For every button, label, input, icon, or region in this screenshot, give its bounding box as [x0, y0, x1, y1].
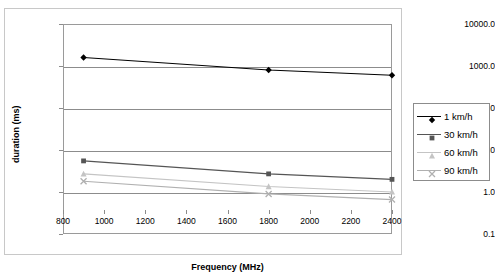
- series-60-km-h: [81, 171, 395, 195]
- x-tick-label: 1800: [249, 217, 289, 226]
- legend-label: 90 km/h: [441, 166, 478, 176]
- legend-swatch-icon: [417, 129, 441, 141]
- data-point: [265, 67, 271, 73]
- x-tick-label: 1400: [166, 217, 206, 226]
- x-axis-title: Frequency (MHz): [43, 262, 412, 272]
- legend-item-60-km-h[interactable]: 60 km/h: [417, 144, 478, 162]
- chart-container: duration (ms) 0.11.010.0100.01000.010000…: [0, 0, 495, 272]
- x-tick-mark: [228, 210, 229, 214]
- y-tick-mark: [59, 234, 63, 235]
- legend-swatch-icon: [417, 165, 441, 177]
- y-tick-label: 1000.0: [437, 62, 495, 71]
- legend-label: 1 km/h: [441, 112, 473, 122]
- y-tick-label: 10000.0: [437, 20, 495, 29]
- series-30-km-h: [81, 159, 394, 182]
- legend-swatch-icon: [417, 111, 441, 123]
- legend-item-30-km-h[interactable]: 30 km/h: [417, 126, 478, 144]
- x-tick-label: 1200: [125, 217, 165, 226]
- x-tick-mark: [392, 210, 393, 214]
- series-1-km-h: [80, 54, 395, 78]
- legend-item-90-km-h[interactable]: 90 km/h: [417, 162, 478, 180]
- series-line: [84, 174, 392, 192]
- legend-label: 30 km/h: [441, 130, 478, 140]
- legend-swatch-icon: [417, 147, 441, 159]
- x-tick-label: 1000: [84, 217, 124, 226]
- x-tick-mark: [104, 210, 105, 214]
- y-tick-label: 0.1: [437, 230, 495, 239]
- data-point: [390, 177, 395, 182]
- data-point: [81, 159, 86, 164]
- x-tick-mark: [63, 210, 64, 214]
- x-tick-mark: [145, 210, 146, 214]
- data-point: [266, 171, 271, 176]
- legend-label: 60 km/h: [441, 148, 478, 158]
- series-line: [84, 57, 392, 75]
- y-axis-title: duration (ms): [11, 106, 21, 164]
- legend-item-1-km-h[interactable]: 1 km/h: [417, 108, 473, 126]
- x-tick-label: 2200: [331, 217, 371, 226]
- data-point: [80, 54, 86, 60]
- chart-legend: 1 km/h30 km/h60 km/h90 km/h: [413, 103, 490, 181]
- x-tick-mark: [351, 210, 352, 214]
- series-layer: [63, 24, 392, 234]
- x-tick-label: 2000: [290, 217, 330, 226]
- x-tick-label: 2400: [372, 217, 412, 226]
- x-tick-label: 800: [43, 217, 83, 226]
- x-tick-label: 1600: [208, 217, 248, 226]
- y-tick-label: 1.0: [437, 188, 495, 197]
- x-tick-mark: [310, 210, 311, 214]
- x-tick-mark: [269, 210, 270, 214]
- x-tick-mark: [186, 210, 187, 214]
